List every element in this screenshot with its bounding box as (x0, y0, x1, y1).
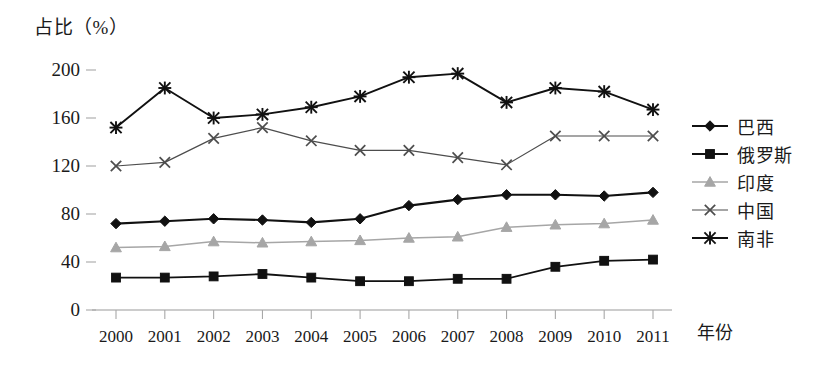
data-point-square-marker (405, 277, 414, 286)
legend-label: 南非 (737, 225, 774, 251)
data-point-square-marker (551, 262, 560, 271)
data-point-diamond-marker (355, 214, 365, 224)
chart-figure: 占比（%） 年份 04080120160200 2000200120022003… (0, 0, 840, 371)
data-point-diamond-marker (599, 191, 609, 201)
y-axis-title: 占比（%） (34, 12, 128, 39)
x-tick-label: 2005 (343, 327, 377, 347)
legend-label: 印度 (737, 169, 774, 195)
legend-swatch-x (690, 201, 730, 219)
data-point-asterisk-marker (500, 96, 513, 109)
y-tick-label: 40 (34, 251, 80, 273)
x-tick-label: 2011 (636, 327, 669, 347)
y-tick-label: 120 (34, 155, 80, 177)
legend-label: 俄罗斯 (737, 141, 793, 167)
chart-legend: 巴西俄罗斯印度中国南非 (690, 112, 835, 252)
legend-item-4[interactable]: 南非 (690, 224, 835, 252)
data-point-asterisk-marker (354, 90, 367, 103)
series-line (116, 192, 653, 223)
data-point-square-marker (649, 255, 658, 264)
data-point-diamond-marker (111, 218, 121, 228)
data-point-square-marker (258, 270, 267, 279)
legend-item-2[interactable]: 印度 (690, 168, 835, 196)
data-point-square-marker (209, 272, 218, 281)
x-tick-label: 2009 (538, 327, 572, 347)
data-point-asterisk-marker (305, 101, 318, 114)
data-point-square-marker (160, 273, 169, 282)
series-3 (111, 122, 658, 171)
data-point-diamond-marker (208, 214, 218, 224)
x-axis-title: 年份 (697, 318, 733, 344)
x-tick-label: 2001 (148, 327, 182, 347)
series-line (116, 220, 653, 248)
data-point-x-marker (306, 136, 316, 146)
data-point-square-marker (112, 273, 121, 282)
data-point-triangle-marker (648, 215, 659, 225)
y-tick-label: 0 (34, 299, 80, 321)
legend-swatch-diamond (690, 117, 730, 135)
data-point-asterisk-marker (110, 121, 123, 134)
data-point-asterisk-marker (549, 82, 562, 95)
data-point-x-marker (257, 122, 267, 132)
data-point-asterisk-marker (704, 232, 717, 245)
series-line (116, 128, 653, 166)
legend-swatch-asterisk (690, 229, 730, 247)
data-point-diamond-marker (453, 194, 463, 204)
data-point-asterisk-marker (158, 82, 171, 95)
x-tick-label: 2007 (441, 327, 475, 347)
legend-swatch-square (690, 145, 730, 163)
data-point-asterisk-marker (256, 108, 269, 121)
data-point-diamond-marker (257, 215, 267, 225)
legend-item-3[interactable]: 中国 (690, 196, 835, 224)
data-point-diamond-marker (404, 200, 414, 210)
data-point-square-marker (502, 274, 511, 283)
series-0 (111, 187, 658, 229)
data-point-asterisk-marker (207, 112, 220, 125)
data-point-diamond-marker (705, 121, 715, 131)
data-point-diamond-marker (501, 190, 511, 200)
data-point-square-marker (356, 277, 365, 286)
y-tick-label: 80 (34, 203, 80, 225)
data-point-square-marker (307, 273, 316, 282)
x-tick-label: 2000 (99, 327, 133, 347)
x-tick-label: 2004 (294, 327, 328, 347)
y-tick-label: 160 (34, 107, 80, 129)
data-point-x-marker (208, 133, 218, 143)
data-point-diamond-marker (648, 187, 658, 197)
x-tick-label: 2002 (197, 327, 231, 347)
data-point-diamond-marker (160, 216, 170, 226)
series-line (116, 260, 653, 282)
data-point-square-marker (600, 256, 609, 265)
legend-item-1[interactable]: 俄罗斯 (690, 140, 835, 168)
x-tick-label: 2003 (245, 327, 279, 347)
legend-swatch-triangle (690, 173, 730, 191)
series-line (116, 74, 653, 128)
data-point-asterisk-marker (598, 85, 611, 98)
data-point-diamond-marker (550, 190, 560, 200)
data-point-asterisk-marker (647, 103, 660, 116)
data-point-square-marker (453, 274, 462, 283)
data-point-asterisk-marker (402, 71, 415, 84)
series-4 (110, 67, 660, 134)
y-tick-label: 200 (34, 59, 80, 81)
data-point-asterisk-marker (451, 67, 464, 80)
legend-item-0[interactable]: 巴西 (690, 112, 835, 140)
data-point-diamond-marker (306, 217, 316, 227)
x-tick-label: 2008 (490, 327, 524, 347)
data-point-square-marker (706, 150, 715, 159)
x-tick-label: 2010 (587, 327, 621, 347)
legend-label: 中国 (737, 197, 774, 223)
legend-label: 巴西 (737, 113, 774, 139)
series-1 (112, 255, 658, 285)
x-tick-label: 2006 (392, 327, 426, 347)
